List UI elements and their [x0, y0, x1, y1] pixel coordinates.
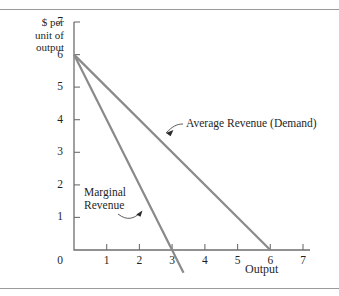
y-tick-label-1: 1: [52, 210, 68, 222]
y-tick-label-6: 6: [52, 48, 68, 60]
marginal-revenue-line: [74, 55, 184, 273]
average-revenue-leader: [166, 124, 183, 133]
x-tick-label-4: 4: [197, 254, 213, 266]
x-tick-label-5: 5: [230, 254, 246, 266]
average-revenue-annotation: Average Revenue (Demand): [186, 117, 317, 130]
y-tick-label-5: 5: [52, 80, 68, 92]
y-tick-label-2: 2: [52, 178, 68, 190]
marginal-revenue-annotation-line-1: Marginal: [84, 186, 126, 199]
average-revenue-arrowhead: [166, 130, 173, 136]
y-tick-label-7: 7: [52, 15, 68, 27]
x-tick-label-3: 3: [164, 254, 180, 266]
marginal-revenue-annotation-line-2: Revenue: [84, 199, 126, 212]
y-tick-label-0: 0: [52, 254, 68, 266]
axes: [74, 22, 310, 250]
x-tick-label-1: 1: [99, 254, 115, 266]
figure-container: $ per unit of output Output 7 6 5 4 3 2 …: [0, 0, 339, 296]
x-tick-label-6: 6: [262, 254, 278, 266]
y-tick-label-3: 3: [52, 145, 68, 157]
x-tick-label-2: 2: [131, 254, 147, 266]
average-revenue-line: [74, 55, 270, 250]
marginal-revenue-arrowhead: [136, 210, 142, 216]
y-axis-label-line-2: unit of: [6, 29, 64, 42]
y-tick-label-4: 4: [52, 113, 68, 125]
marginal-revenue-annotation: Marginal Revenue: [84, 186, 126, 212]
x-tick-label-7: 7: [295, 254, 311, 266]
